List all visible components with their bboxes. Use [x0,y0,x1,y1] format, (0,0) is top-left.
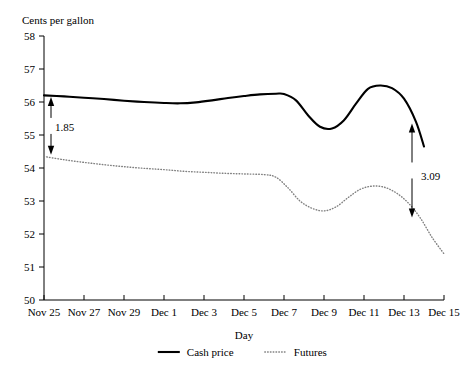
y-tick-label: 51 [24,261,35,273]
series-line-cash-price [44,85,424,146]
line-chart: Cents per gallon 505152535455565758 Nov … [0,0,468,374]
x-tick-label: Dec 13 [388,306,420,318]
annotations-group: 1.853.09 [48,97,441,217]
x-axis-title: Day [235,329,254,341]
legend-label: Cash price [187,346,234,358]
arrowhead-down [409,209,415,218]
arrowhead-up [48,97,54,106]
y-tick-label: 50 [24,294,36,306]
data-series-group [44,85,444,253]
chart-legend: Cash priceFutures [158,346,327,358]
x-tick-label: Dec 5 [231,306,257,318]
x-tick-label: Dec 3 [191,306,217,318]
y-tick-label: 52 [24,228,35,240]
annotation-3.09: 3.09 [409,123,441,217]
x-tick-label: Dec 9 [311,306,337,318]
y-tick-label: 53 [24,195,36,207]
y-tick-label: 56 [24,96,36,108]
legend-item-cash-price[interactable]: Cash price [158,346,234,358]
x-tick-label: Dec 1 [151,306,177,318]
y-axis-title: Cents per gallon [22,14,95,26]
x-tick-label: Nov 29 [108,306,141,318]
arrowhead-up [409,123,415,132]
y-tick-label: 54 [24,162,36,174]
x-tick-label: Dec 11 [348,306,379,318]
legend-item-futures[interactable]: Futures [265,346,327,358]
x-tick-label: Nov 27 [68,306,101,318]
x-tick-label: Dec 7 [271,306,297,318]
y-axis-ticks: 505152535455565758 [24,30,44,306]
x-axis-ticks: Nov 25Nov 27Nov 29Dec 1Dec 3Dec 5Dec 7De… [28,295,461,318]
arrowhead-down [48,146,54,155]
annotation-label: 1.85 [55,121,75,133]
chart-container: Cents per gallon 505152535455565758 Nov … [0,0,468,374]
y-tick-label: 58 [24,30,36,42]
annotation-1.85: 1.85 [48,97,75,155]
y-tick-label: 55 [24,129,36,141]
annotation-label: 3.09 [421,170,441,182]
x-tick-label: Dec 15 [428,306,460,318]
y-tick-label: 57 [24,63,36,75]
series-line-futures [44,156,444,253]
x-tick-label: Nov 25 [28,306,61,318]
legend-label: Futures [294,346,327,358]
